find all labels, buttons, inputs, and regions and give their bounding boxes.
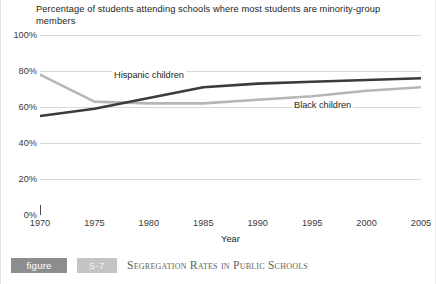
series-label-hispanic: Hispanic children	[112, 70, 186, 81]
x-axis-title: Year	[40, 234, 421, 244]
axis-lines	[41, 205, 422, 215]
series-line-hispanic-children	[40, 78, 421, 116]
plot-area	[40, 35, 421, 215]
x-tick-label: 1995	[289, 218, 335, 229]
caption-title: Segregation Rates in Public Schools	[127, 257, 308, 274]
y-tick-label: 80%	[3, 66, 37, 76]
y-tick-label: 20%	[3, 174, 37, 184]
chart-title: Percentage of students attending schools…	[36, 3, 384, 27]
x-tick-label: 1985	[180, 218, 226, 229]
figure-container: Percentage of students attending schools…	[0, 0, 436, 284]
x-axis: 19701975198019851990199520002005	[40, 218, 421, 232]
x-tick-label: 1990	[235, 218, 281, 229]
x-tick-label: 2005	[398, 218, 436, 229]
series-lines	[40, 75, 421, 116]
series-label-black: Black children	[292, 100, 353, 111]
y-tick-label: 40%	[3, 138, 37, 148]
chart-plot-svg	[40, 35, 421, 215]
x-tick-label: 1975	[71, 218, 117, 229]
x-tick-label: 1970	[17, 218, 63, 229]
figure-number-badge: 5-7	[77, 258, 117, 273]
y-tick-label: 60%	[3, 102, 37, 112]
caption-bar: figure 5-7 Segregation Rates in Public S…	[1, 256, 436, 278]
y-tick-label: 100%	[3, 30, 37, 40]
figure-badge: figure	[11, 258, 67, 273]
x-tick-label: 2000	[344, 218, 390, 229]
y-axis: 0%20%40%60%80%100%	[1, 35, 37, 215]
x-tick-label: 1980	[126, 218, 172, 229]
